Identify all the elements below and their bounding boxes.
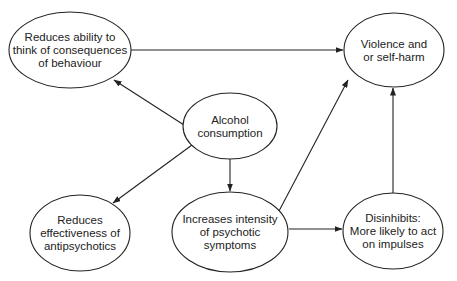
node-label-line: Reduces ability to [25,31,116,43]
node-label-line: symptoms [204,239,257,251]
nodes-group: Reduces ability tothink of consequenceso… [9,12,444,272]
node-label-line: think of consequences [13,44,128,56]
node-label-line: on impulses [362,238,424,250]
node-label-line: More likely to act [350,225,437,237]
node-label-line: or self-harm [363,51,424,63]
node-label-line: consumption [197,127,262,139]
node-increases-intensity: Increases intensityof psychoticsymptoms [172,192,288,272]
node-label-line: Increases intensity [182,213,277,225]
node-label-line: of behaviour [38,57,101,69]
node-label-line: effectiveness of [40,227,121,239]
node-reduces-effectiveness: Reduceseffectiveness ofantipsychotics [30,195,130,271]
arrow-alcohol-to-reduces-ability [114,80,184,125]
node-violence: Violence andor self-harm [344,13,444,87]
arrow-increases-intensity-to-violence [279,80,348,211]
node-label-line: antipsychotics [44,240,116,252]
node-reduces-ability: Reduces ability tothink of consequenceso… [9,12,131,88]
node-label-line: Reduces [57,214,103,226]
node-disinhibits: Disinhibits:More likely to acton impulse… [343,193,443,269]
node-label-line: Alcohol [211,114,249,126]
node-label-line: of psychotic [200,226,261,238]
node-label-line: Disinhibits: [365,212,421,224]
arrow-alcohol-to-reduces-effectiveness [113,145,192,203]
node-label-line: Violence and [361,38,427,50]
node-alcohol: Alcoholconsumption [183,93,277,159]
alcohol-effects-diagram: Reduces ability tothink of consequenceso… [0,0,457,281]
